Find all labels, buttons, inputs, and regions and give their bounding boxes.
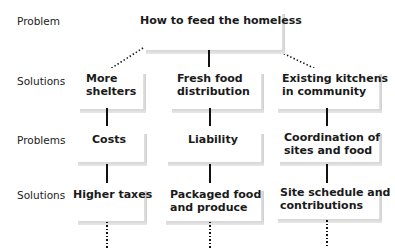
connector-col1-b — [106, 164, 108, 183]
sub-solution-box-packaged-food: Packaged food and produce — [166, 185, 264, 225]
line: distribution — [177, 85, 250, 98]
line: Coordination of — [284, 131, 380, 144]
line: Liability — [188, 133, 238, 146]
line: Existing kitchens — [282, 72, 388, 85]
line: Site schedule and — [280, 186, 391, 199]
problem-label: Coordination of sites and food — [284, 131, 380, 157]
connector-col2-a — [209, 108, 211, 126]
line: shelters — [86, 85, 136, 98]
line: Fresh food — [177, 72, 250, 85]
line: Costs — [92, 133, 126, 146]
solution-box-fresh-food: Fresh food distribution — [172, 68, 264, 113]
dotted-connector-left — [110, 48, 143, 69]
solution-label: Fresh food distribution — [177, 72, 250, 98]
root-center-connector — [208, 50, 210, 67]
sub-solution-label: Site schedule and contributions — [280, 186, 391, 212]
line: sites and food — [284, 144, 380, 157]
sub-solution-label: Packaged food and produce — [170, 188, 261, 214]
connector-col3-b — [326, 164, 328, 183]
solution-box-more-shelters: More shelters — [80, 68, 146, 113]
sub-solution-box-site-schedule: Site schedule and contributions — [278, 183, 382, 223]
line: Packaged food — [170, 188, 261, 201]
line: and produce — [170, 201, 261, 214]
problem-box-liability: Liability — [168, 128, 264, 166]
sub-solution-label: Higher taxes — [73, 188, 152, 201]
sub-solution-box-higher-taxes: Higher taxes — [78, 185, 147, 225]
problem-label: Costs — [92, 133, 126, 146]
problem-box-coordination: Coordination of sites and food — [280, 128, 382, 166]
line: contributions — [280, 199, 391, 212]
line: in community — [282, 85, 388, 98]
connector-col1-a — [106, 108, 108, 126]
line: More — [86, 72, 136, 85]
connector-col3-a — [326, 108, 328, 126]
solution-label: Existing kitchens in community — [282, 72, 388, 98]
problem-box-costs: Costs — [78, 128, 147, 166]
solution-label: More shelters — [86, 72, 136, 98]
continuation-dots-col1 — [106, 222, 108, 248]
continuation-dots-col3 — [326, 220, 328, 248]
root-problem-box: How to feed the homeless — [146, 8, 285, 54]
solution-box-existing-kitchens: Existing kitchens in community — [278, 68, 382, 113]
line: Higher taxes — [73, 188, 152, 201]
root-problem-label: How to feed the homeless — [140, 14, 290, 27]
continuation-dots-col2 — [209, 222, 211, 248]
connector-col2-b — [209, 164, 211, 183]
problem-label: Liability — [188, 133, 238, 146]
